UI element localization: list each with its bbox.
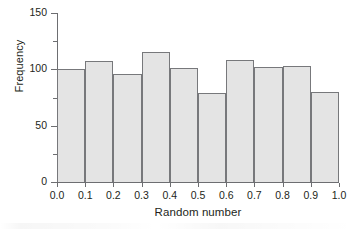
x-axis-tick-label: 0.8 [268, 189, 298, 202]
histogram-bar [113, 74, 141, 182]
histogram-bar [198, 93, 226, 182]
histogram-bar [283, 66, 311, 182]
scan-artifact [0, 223, 354, 229]
histogram-bar [142, 52, 170, 182]
histogram-bar [170, 68, 198, 182]
y-axis-tick: 150 [51, 13, 57, 14]
y-axis-minor-tick [53, 154, 57, 155]
x-axis-tick-label: 0.4 [155, 189, 185, 202]
histogram-bar [226, 60, 254, 182]
histogram-figure: Frequency 050100150 0.00.10.20.30.40.50.… [0, 0, 354, 229]
y-axis-tick-label: 150 [29, 6, 47, 19]
histogram-bar [85, 61, 113, 182]
y-axis-minor-tick [53, 41, 57, 42]
x-axis-tick-label: 0.7 [239, 189, 269, 202]
histogram-bar [254, 67, 282, 182]
y-axis-tick-label: 0 [41, 175, 47, 188]
x-axis-tick-label: 0.2 [98, 189, 128, 202]
y-axis-title: Frequency [13, 16, 25, 116]
y-axis-tick: 100 [51, 69, 57, 70]
x-axis-tick [113, 183, 114, 187]
histogram-bar [311, 92, 339, 182]
x-axis-tick [254, 183, 255, 187]
x-axis-tick [57, 183, 58, 187]
x-axis-tick [283, 183, 284, 187]
x-axis-tick [226, 183, 227, 187]
plot-area: 050100150 0.00.10.20.30.40.50.60.70.80.9… [57, 13, 339, 183]
y-axis-tick: 50 [51, 126, 57, 127]
x-axis-tick [85, 183, 86, 187]
histogram-bar [57, 69, 85, 182]
x-axis-tick-label: 0.0 [42, 189, 72, 202]
x-axis-tick-label: 0.3 [127, 189, 157, 202]
x-axis-tick-label: 0.1 [70, 189, 100, 202]
x-axis-tick [142, 183, 143, 187]
x-axis-title: Random number [57, 206, 339, 218]
x-axis-tick-label: 0.9 [296, 189, 326, 202]
y-axis-tick-label: 50 [35, 119, 47, 132]
x-axis-tick-label: 1.0 [324, 189, 354, 202]
x-axis-tick-label: 0.6 [211, 189, 241, 202]
x-axis-tick-label: 0.5 [183, 189, 213, 202]
y-axis-tick-label: 100 [29, 62, 47, 75]
x-axis-tick [311, 183, 312, 187]
x-axis-tick [198, 183, 199, 187]
x-axis-tick [170, 183, 171, 187]
x-axis-tick [339, 183, 340, 187]
y-axis-minor-tick [53, 98, 57, 99]
